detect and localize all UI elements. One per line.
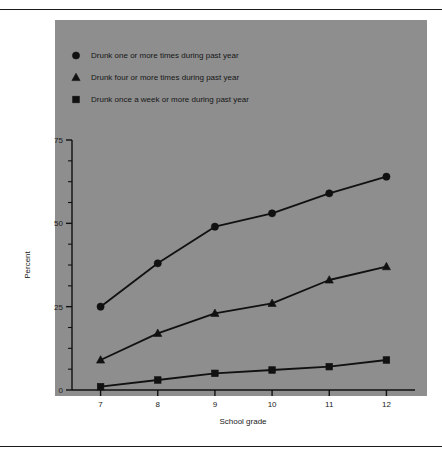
x-tick-label: 8	[156, 400, 161, 409]
circle-marker-icon	[72, 52, 79, 59]
x-tick-label: 10	[268, 400, 277, 409]
y-tick-label: 0	[59, 386, 64, 395]
series-line-triangle	[101, 267, 387, 360]
x-axis-title: School grade	[219, 417, 267, 426]
y-tick-label: 25	[54, 303, 63, 312]
data-point-square	[269, 367, 276, 374]
data-point-square	[154, 377, 161, 384]
data-point-triangle	[382, 262, 390, 269]
x-tick-label: 12	[382, 400, 391, 409]
chart-legend: Drunk one or more times during past year…	[72, 51, 249, 104]
series-circle	[97, 173, 390, 310]
legend-label: Drunk once a week or more during past ye…	[91, 95, 249, 104]
y-axis-ticks: 0255075	[54, 136, 72, 395]
axes-group	[72, 140, 415, 390]
x-tick-label: 11	[325, 400, 334, 409]
legend-label: Drunk four or more times during past yea…	[91, 73, 239, 82]
triangle-marker-icon	[72, 73, 80, 80]
x-axis-ticks: 789101112	[98, 390, 391, 409]
x-tick-label: 9	[213, 400, 218, 409]
data-point-circle	[154, 260, 161, 267]
chart-page: 0255075 789101112 Percent School grade D…	[0, 0, 442, 456]
data-point-square	[212, 370, 219, 377]
line-chart: 0255075 789101112 Percent School grade D…	[0, 0, 442, 456]
series-line-square	[101, 360, 387, 387]
data-point-circle	[268, 210, 275, 217]
data-point-square	[383, 357, 390, 364]
square-marker-icon	[73, 96, 80, 103]
y-tick-label: 50	[54, 219, 63, 228]
data-point-square	[97, 383, 104, 390]
series-triangle	[96, 262, 390, 363]
data-point-circle	[97, 303, 104, 310]
series-square	[97, 357, 389, 390]
data-point-circle	[211, 223, 218, 230]
data-point-circle	[326, 190, 333, 197]
legend-label: Drunk one or more times during past year	[91, 51, 239, 60]
y-tick-label: 75	[54, 136, 63, 145]
data-point-square	[326, 363, 333, 370]
data-point-circle	[383, 173, 390, 180]
data-series-layer	[96, 173, 390, 390]
x-tick-label: 7	[98, 400, 103, 409]
y-axis-title: Percent	[23, 250, 32, 278]
series-line-circle	[101, 177, 387, 307]
